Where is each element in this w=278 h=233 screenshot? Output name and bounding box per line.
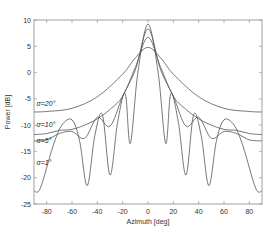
x-tick-label: 60 — [220, 208, 228, 215]
y-tick-label: 0 — [27, 69, 31, 76]
x-tick-label: -20 — [118, 208, 128, 215]
y-tick-label: 5 — [27, 43, 31, 50]
y-axis-label: Power [dB] — [4, 95, 12, 129]
y-tick-label: -5 — [25, 95, 31, 102]
y-tick-label: -25 — [21, 201, 31, 208]
x-tick-label: 0 — [146, 208, 150, 215]
series-annotation: σ=20° — [37, 100, 56, 107]
y-tick-label: 10 — [23, 17, 31, 24]
x-tick-label: -60 — [67, 208, 77, 215]
y-tick-label: -20 — [21, 174, 31, 181]
x-tick-label: -80 — [42, 208, 52, 215]
series-line-2 — [34, 29, 262, 141]
y-tick-label: -15 — [21, 148, 31, 155]
y-tick-label: -10 — [21, 122, 31, 129]
series-line-1 — [34, 37, 262, 134]
series-annotation: σ=5° — [37, 137, 52, 144]
x-tick-label: -40 — [92, 208, 102, 215]
x-tick-label: 20 — [169, 208, 177, 215]
x-tick-label: 80 — [245, 208, 253, 215]
x-tick-label: 40 — [195, 208, 203, 215]
series-annotation: σ=10° — [37, 121, 56, 128]
series-line-3 — [34, 24, 262, 192]
plot-area: σ=20°σ=10°σ=5°σ=1° — [34, 24, 262, 192]
x-axis-label: Azimuth [deg] — [127, 218, 170, 226]
power-vs-azimuth-chart: σ=20°σ=10°σ=5°σ=1° -80-60-40-20020406080… — [0, 0, 278, 233]
series-annotation: σ=1° — [37, 159, 52, 166]
series-line-0 — [34, 47, 262, 112]
